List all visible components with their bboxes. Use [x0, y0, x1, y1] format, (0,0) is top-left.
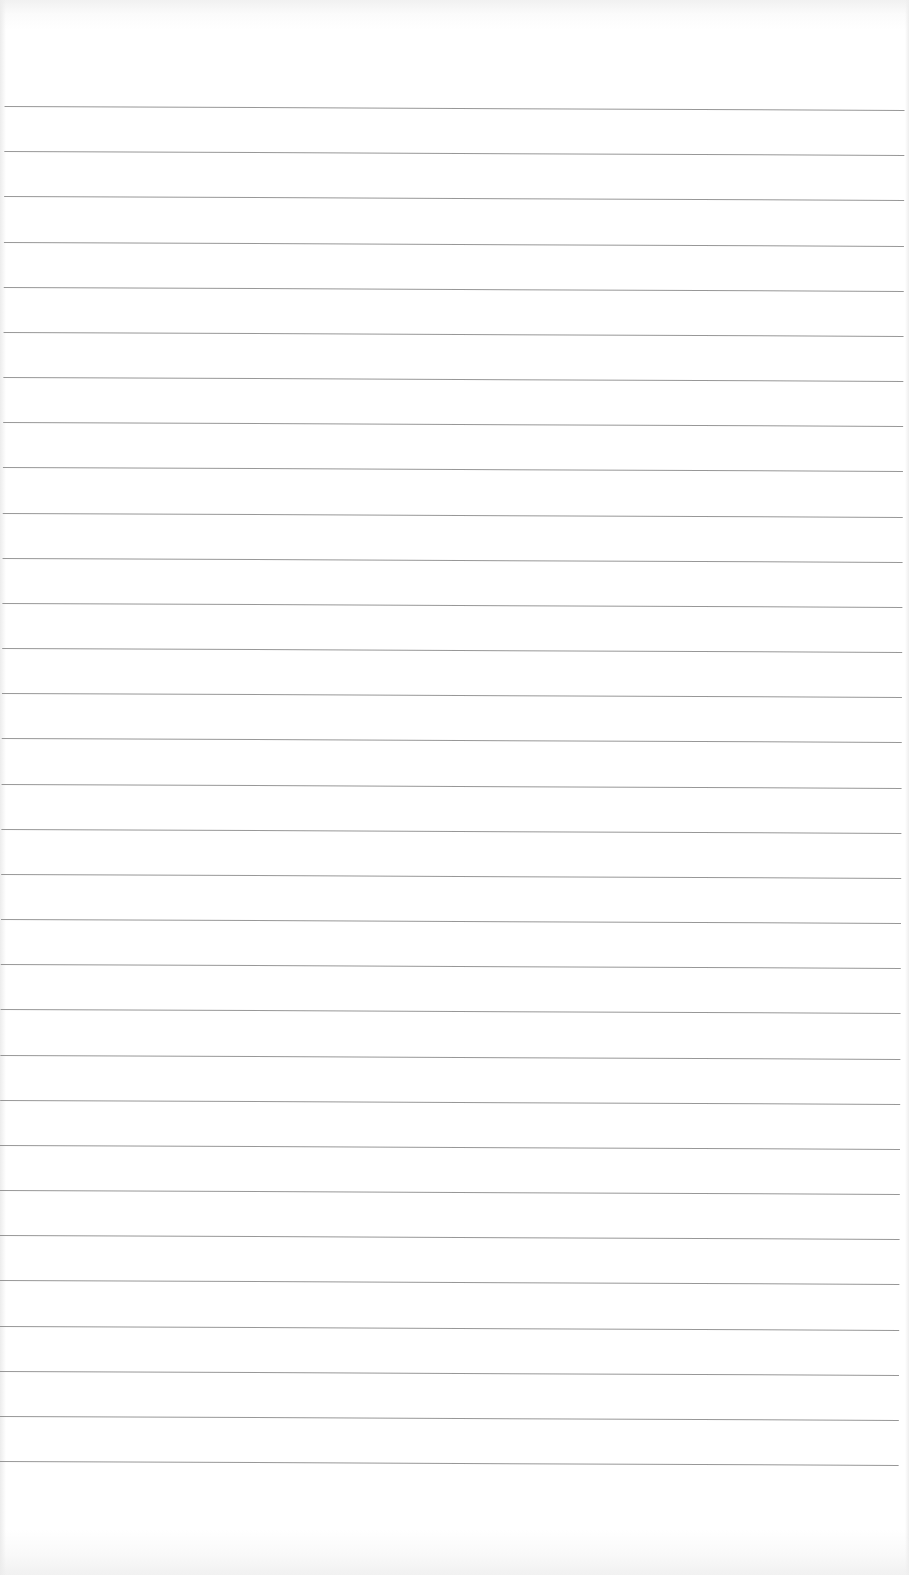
ruled-line	[3, 467, 903, 472]
ruled-line	[1, 964, 901, 969]
ruled-line	[3, 377, 903, 382]
ruled-line	[0, 1280, 899, 1285]
ruled-line	[0, 1371, 899, 1376]
ruled-line	[1, 874, 901, 879]
ruled-line	[2, 603, 902, 608]
ruled-line	[4, 196, 904, 201]
ruled-line	[4, 287, 904, 292]
ruled-line	[0, 1145, 900, 1150]
ruled-line	[4, 151, 904, 156]
ruled-line	[2, 738, 902, 743]
ruled-line	[1, 919, 901, 924]
ruled-line	[0, 1190, 900, 1195]
ruled-line	[0, 1235, 900, 1240]
ruled-line	[3, 422, 903, 427]
ruled-line	[0, 1461, 899, 1466]
ruled-line	[2, 784, 902, 789]
ruled-line	[0, 1416, 899, 1421]
ruled-line	[5, 106, 905, 111]
ruled-line	[3, 558, 903, 563]
ruled-line	[0, 1100, 900, 1105]
ruled-line	[2, 648, 902, 653]
ruled-line	[1, 829, 901, 834]
ruled-paper-page	[0, 0, 909, 1575]
ruled-line	[0, 1326, 899, 1331]
ruled-line	[4, 332, 904, 337]
ruled-lines	[0, 0, 905, 1575]
ruled-line	[4, 242, 904, 247]
ruled-line	[2, 693, 902, 698]
ruled-line	[3, 513, 903, 518]
ruled-line	[0, 1055, 900, 1060]
ruled-line	[1, 1009, 901, 1014]
